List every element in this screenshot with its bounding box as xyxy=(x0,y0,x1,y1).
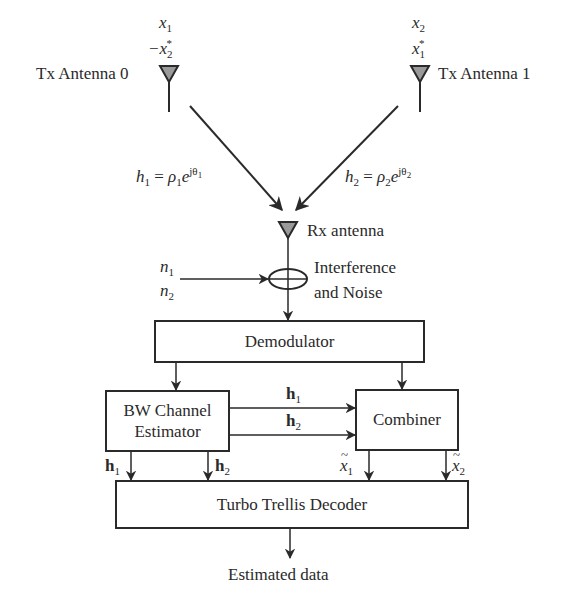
noise-n1: n1 xyxy=(160,258,174,278)
tx-antenna-0-icon xyxy=(160,66,178,112)
estimated-data-label: Estimated data xyxy=(228,566,329,583)
combiner-label: Combiner xyxy=(356,390,458,450)
demodulator-label: Demodulator xyxy=(155,321,424,362)
noise-label-line1: Interference xyxy=(314,259,396,276)
decoder-input-h2-label: h2 xyxy=(215,457,230,477)
channel-h1-equation: h1 = ρ1ejθ1 xyxy=(136,166,202,188)
decoder-input-x2-label: x2 xyxy=(452,457,465,477)
tx-antenna-1-icon xyxy=(411,66,429,112)
signal-h1-label: h1 xyxy=(286,385,301,405)
tx1-symbol-t2: x1* xyxy=(412,38,425,60)
channel-estimator-label: BW Channel Estimator xyxy=(106,391,229,451)
noise-n2: n2 xyxy=(160,282,174,302)
rx-antenna-label: Rx antenna xyxy=(307,222,384,239)
channel-h2-arrow xyxy=(296,106,398,210)
tx1-symbol-t1: x2 xyxy=(412,14,425,34)
tx-antenna-0-label: Tx Antenna 0 xyxy=(36,65,129,82)
decoder-input-x1-label: x1 xyxy=(340,457,353,477)
tx0-symbol-t2: −x2* xyxy=(148,38,172,60)
channel-h1-arrow xyxy=(190,106,282,210)
tx0-symbol-t1: x1 xyxy=(159,14,172,34)
noise-label-line2: and Noise xyxy=(314,284,382,301)
tx-antenna-1-label: Tx Antenna 1 xyxy=(438,65,531,82)
noise-summer-icon xyxy=(269,269,307,289)
decoder-input-h1-label: h1 xyxy=(105,457,120,477)
decoder-label: Turbo Trellis Decoder xyxy=(116,481,468,528)
channel-h2-equation: h2 = ρ2ejθ2 xyxy=(345,166,411,188)
signal-h2-label: h2 xyxy=(286,412,301,432)
rx-antenna-icon xyxy=(279,222,297,270)
